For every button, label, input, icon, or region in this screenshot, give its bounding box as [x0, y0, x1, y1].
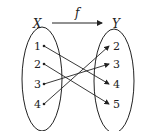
codomain-element-5: 5	[113, 98, 120, 111]
codomain-element-3: 3	[113, 58, 120, 71]
codomain-label: Y	[112, 17, 121, 31]
function-mapping-diagram: X Y f 1 2 3 4 2 3 4 5	[0, 0, 148, 131]
mapping-arrow-4-to-2	[44, 46, 109, 104]
domain-element-1: 1	[34, 40, 41, 53]
domain-element-2: 2	[34, 58, 41, 71]
domain-element-3: 3	[34, 78, 41, 91]
domain-element-4: 4	[34, 98, 41, 111]
mapping-arrow-2-to-5	[44, 64, 109, 104]
function-label: f	[74, 6, 82, 20]
codomain-element-2: 2	[113, 40, 120, 53]
domain-label: X	[32, 17, 42, 31]
domain-set-ellipse	[22, 27, 62, 131]
codomain-element-4: 4	[113, 78, 120, 91]
mapping-arrow-1-to-4	[44, 46, 109, 84]
diagram-canvas: X Y f 1 2 3 4 2 3 4 5	[0, 0, 148, 131]
mapping-arrow-3-to-3	[44, 64, 109, 84]
